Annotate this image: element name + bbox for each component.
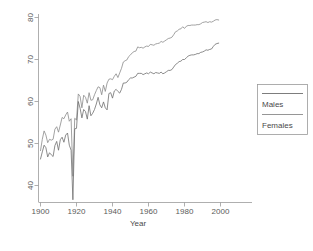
x-tick-label-1960: 1960 (140, 207, 158, 216)
legend: Males Females (258, 85, 308, 135)
y-tick-label-40: 40 (26, 181, 35, 190)
x-tick-label-1940: 1940 (104, 207, 122, 216)
legend-label-males[interactable]: Males (262, 100, 283, 109)
y-tick-label-70: 70 (26, 55, 35, 64)
series-group (41, 20, 219, 200)
x-tick-label-1900: 1900 (32, 207, 50, 216)
y-tick-label-50: 50 (26, 139, 35, 148)
chart-figure: 80 70 60 50 40 1900 1920 1940 1960 1980 … (0, 0, 313, 251)
y-tick-label-80: 80 (26, 13, 35, 22)
x-axis-ticks: 1900 1920 1940 1960 1980 2000 (32, 203, 230, 217)
x-axis-title: Year (130, 219, 147, 228)
axes-group (39, 14, 253, 203)
x-tick-label-2000: 2000 (212, 207, 230, 216)
y-axis-ticks: 80 70 60 50 40 (26, 13, 39, 190)
series-line-males (41, 43, 219, 200)
y-tick-label-60: 60 (26, 97, 35, 106)
line-chart: 80 70 60 50 40 1900 1920 1940 1960 1980 … (0, 0, 313, 251)
x-tick-label-1980: 1980 (176, 207, 194, 216)
legend-label-females[interactable]: Females (262, 121, 293, 130)
series-line-females (41, 20, 219, 177)
x-tick-label-1920: 1920 (68, 207, 86, 216)
